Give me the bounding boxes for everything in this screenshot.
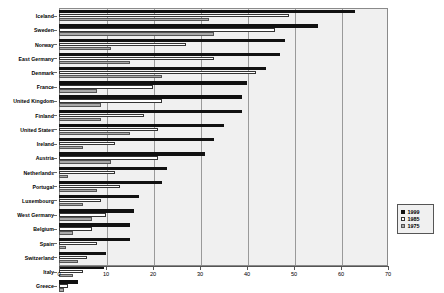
x-tick [294, 266, 295, 270]
bar-row [59, 222, 388, 236]
bar-1975 [59, 160, 111, 163]
category-tick [53, 144, 57, 145]
bar-1975 [59, 61, 130, 64]
category-label: Denmark [0, 66, 57, 80]
legend-swatch-icon [401, 210, 405, 214]
bar-1975 [59, 203, 83, 206]
category-label: Switzerland [0, 251, 57, 265]
bar-1975 [59, 274, 73, 277]
bar-1975 [59, 246, 66, 249]
category-label: Luxembourg [0, 194, 57, 208]
x-axis-line [59, 266, 388, 267]
bar-1985 [59, 71, 256, 74]
bar-1985 [59, 114, 144, 117]
bar-1975 [59, 146, 83, 149]
category-label: France [0, 80, 57, 94]
category-label: Finland [0, 109, 57, 123]
category-label: Portugal [0, 180, 57, 194]
bar-1999 [59, 95, 242, 98]
category-tick [53, 158, 57, 159]
category-tick [53, 200, 57, 201]
bar-row [59, 165, 388, 179]
category-label: Italy [0, 265, 57, 279]
bar-rows [59, 9, 388, 265]
category-label: Greece [0, 279, 57, 293]
category-tick [53, 215, 57, 216]
bar-1975 [59, 175, 68, 178]
bar-row [59, 151, 388, 165]
bar-1999 [59, 138, 214, 141]
bar-1975 [59, 75, 162, 78]
bar-1985 [59, 270, 83, 273]
bar-1985 [59, 14, 289, 17]
bar-1999 [59, 67, 266, 70]
bar-1975 [59, 260, 78, 263]
legend-entry: 1999 [401, 209, 430, 215]
category-label: Austria [0, 151, 57, 165]
legend-swatch-icon [401, 217, 405, 221]
bar-row [59, 9, 388, 23]
legend-label: 1999 [408, 209, 420, 215]
bar-1975 [59, 32, 214, 35]
bar-1999 [59, 124, 224, 127]
bar-1985 [59, 213, 106, 216]
legend-swatch-icon [401, 224, 405, 228]
bar-1975 [59, 189, 97, 192]
bar-1985 [59, 284, 68, 287]
bar-1985 [59, 185, 120, 188]
bar-1999 [59, 24, 318, 27]
bar-row [59, 208, 388, 222]
bar-1999 [59, 195, 139, 198]
category-tick [53, 172, 57, 173]
category-tick [53, 229, 57, 230]
bar-1999 [59, 252, 106, 255]
bar-row [59, 180, 388, 194]
bar-1975 [59, 217, 92, 220]
x-tick-label: 20 [150, 271, 156, 277]
bar-1999 [59, 280, 78, 283]
category-tick [53, 186, 57, 187]
legend-label: 1985 [408, 216, 420, 222]
bar-1999 [59, 81, 247, 84]
x-tick-label: 60 [338, 271, 344, 277]
x-tick-label: 40 [244, 271, 250, 277]
bar-1975 [59, 231, 73, 234]
x-tick [341, 266, 342, 270]
category-tick [53, 243, 57, 244]
bar-row [59, 251, 388, 265]
bar-row [59, 279, 388, 293]
category-label: Belgium [0, 222, 57, 236]
bar-row [59, 94, 388, 108]
bar-1975 [59, 288, 64, 291]
bar-1985 [59, 256, 87, 259]
bar-1985 [59, 128, 158, 131]
bar-1975 [59, 89, 97, 92]
bar-row [59, 123, 388, 137]
x-tick [153, 266, 154, 270]
x-tick-label: 0 [57, 271, 60, 277]
category-tick [53, 272, 57, 273]
bar-1975 [59, 103, 101, 106]
bar-1985 [59, 142, 115, 145]
bar-row [59, 237, 388, 251]
category-label: Iceland [0, 9, 57, 23]
bar-1985 [59, 85, 153, 88]
category-tick [53, 129, 57, 130]
x-tick-label: 30 [197, 271, 203, 277]
category-tick [53, 115, 57, 116]
bar-1985 [59, 156, 158, 159]
x-tick [106, 266, 107, 270]
category-label: Sweden [0, 23, 57, 37]
category-tick [53, 72, 57, 73]
x-tick [388, 266, 389, 270]
bar-1985 [59, 43, 186, 46]
legend-entry: 1975 [401, 223, 430, 229]
category-tick [53, 286, 57, 287]
category-label: United Kingdom [0, 94, 57, 108]
legend-label: 1975 [408, 223, 420, 229]
bar-1985 [59, 199, 101, 202]
category-tick [53, 87, 57, 88]
bar-1975 [59, 132, 130, 135]
bar-row [59, 109, 388, 123]
bar-row [59, 66, 388, 80]
